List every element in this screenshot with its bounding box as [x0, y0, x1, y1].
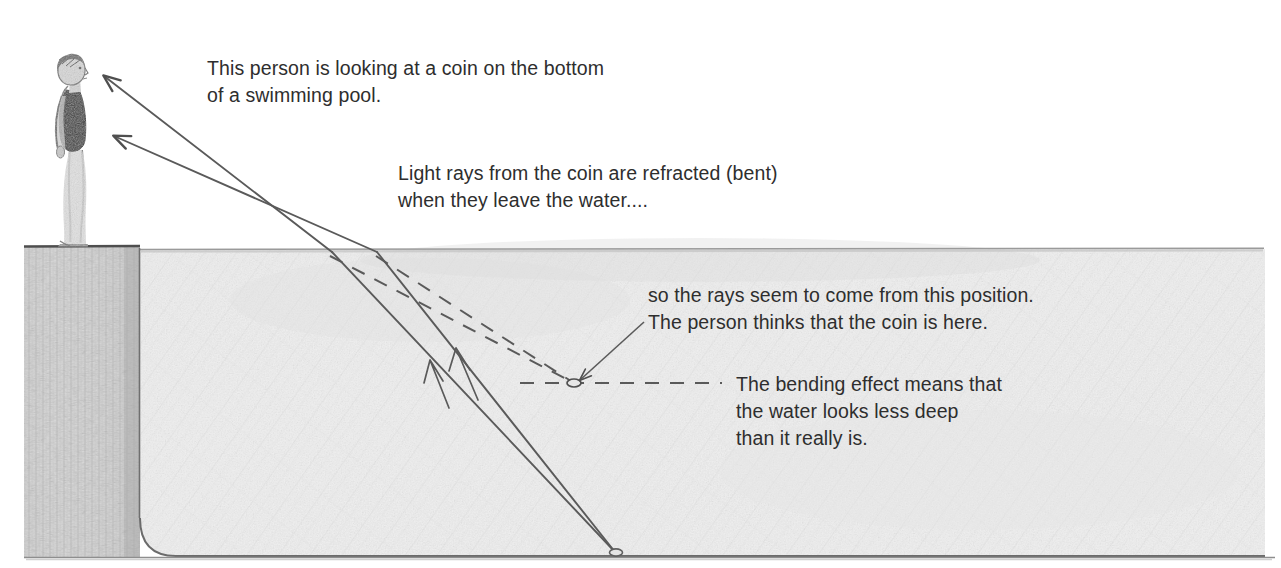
coin-real [610, 549, 623, 556]
refraction-diagram: This person is looking at a coin on the … [0, 0, 1281, 568]
person-figure [56, 54, 88, 247]
caption-refraction: Light rays from the coin are refracted (… [398, 160, 778, 214]
pool-wall [24, 246, 140, 557]
diagram-graphics [0, 0, 1281, 568]
caption-bending-effect: The bending effect means that the water … [736, 371, 1002, 452]
caption-intro: This person is looking at a coin on the … [207, 55, 604, 109]
coin-virtual-image [567, 379, 581, 387]
water-surface-line [140, 248, 1264, 251]
ray-air-2 [114, 136, 377, 252]
caption-virtual-image: so the rays seem to come from this posit… [648, 282, 1034, 336]
